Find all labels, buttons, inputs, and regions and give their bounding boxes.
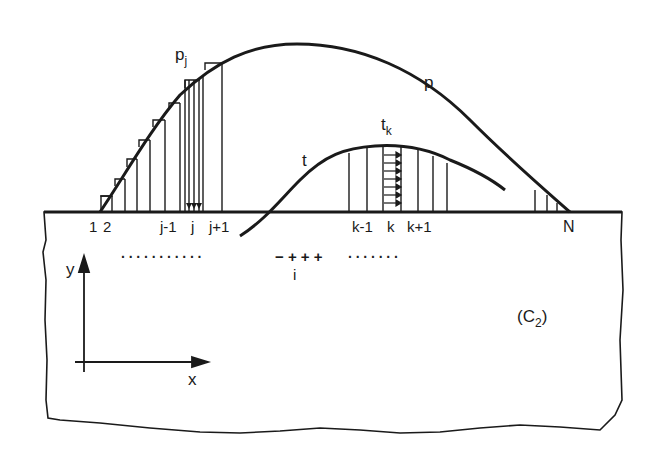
label-x: x xyxy=(188,371,197,388)
label-p: p xyxy=(424,74,433,91)
axes xyxy=(75,256,208,372)
label-j: j xyxy=(191,219,194,234)
dots-right: ······· xyxy=(348,249,402,265)
label-y: y xyxy=(66,261,75,278)
region-label-c2: (C2) xyxy=(517,308,547,325)
signs-row: − + + + xyxy=(275,249,323,264)
k-arrows xyxy=(384,152,401,206)
diagram-canvas xyxy=(0,0,653,450)
label-1: 1 xyxy=(89,219,97,234)
label-2: 2 xyxy=(103,219,111,234)
label-k-plus-1: k+1 xyxy=(407,219,432,234)
label-k: k xyxy=(387,219,395,234)
label-j-minus-1: j-1 xyxy=(160,219,177,234)
label-t: t xyxy=(302,152,307,169)
label-j-plus-1: j+1 xyxy=(209,219,229,234)
x-arrow-icon xyxy=(192,357,208,367)
label-i: i xyxy=(293,267,296,282)
n-columns xyxy=(535,190,557,212)
dots-left: ··········· xyxy=(121,249,205,265)
label-pj: pj xyxy=(175,46,187,63)
p-columns xyxy=(101,63,222,212)
label-N: N xyxy=(563,219,575,235)
label-k-minus-1: k-1 xyxy=(352,219,373,234)
label-tk: tk xyxy=(381,116,392,133)
y-arrow-icon xyxy=(79,256,89,272)
